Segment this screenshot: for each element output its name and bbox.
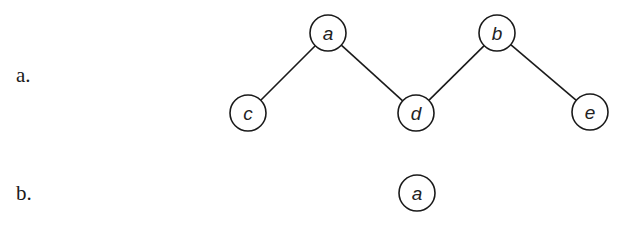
nodes-layer: abcdea bbox=[230, 15, 608, 211]
node-label: a bbox=[323, 23, 334, 44]
edges-layer bbox=[261, 45, 577, 101]
node-d: d bbox=[398, 95, 434, 131]
edge-b-e bbox=[511, 45, 577, 101]
node-e: e bbox=[572, 94, 608, 130]
node-a-part-b: a bbox=[399, 175, 435, 211]
edge-b-d bbox=[429, 46, 484, 101]
node-label: c bbox=[243, 103, 253, 124]
edge-a-d bbox=[341, 45, 402, 101]
node-label: e bbox=[585, 102, 596, 123]
node-label: d bbox=[411, 103, 423, 124]
node-label: b bbox=[492, 23, 503, 44]
edge-a-c bbox=[261, 46, 316, 101]
node-c: c bbox=[230, 95, 266, 131]
node-a: a bbox=[310, 15, 346, 51]
node-b: b bbox=[479, 15, 515, 51]
node-label: a bbox=[412, 183, 423, 204]
graph-diagram: abcdea bbox=[0, 0, 643, 231]
